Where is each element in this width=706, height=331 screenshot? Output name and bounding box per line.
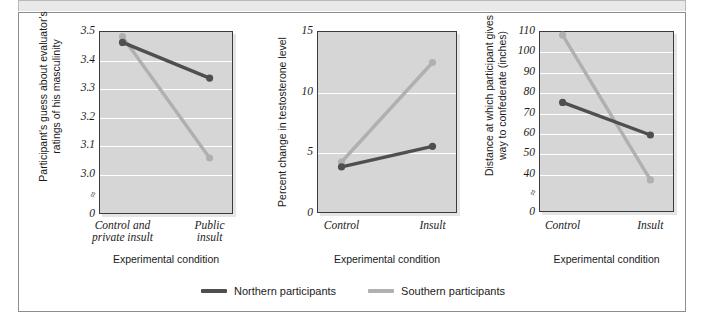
gridline: [100, 89, 232, 90]
y-axis-title: Percent change in testosterone level: [276, 31, 289, 213]
y-axis-title: Participant's guess about evaluator'srat…: [37, 5, 62, 188]
plot-area: [317, 31, 457, 213]
gridline: [540, 154, 673, 155]
figure-top-band: [18, 0, 686, 11]
y-axis-break-icon: ≈: [88, 190, 98, 198]
chart-panel-3: 1101009080706050400≈ControlInsultExperim…: [469, 13, 687, 313]
y-tick-label: 3.0: [61, 167, 95, 179]
gridline: [100, 61, 232, 62]
x-axis-title: Experimental condition: [277, 253, 497, 265]
x-tick-label: Insult: [602, 219, 698, 231]
legend-entry-southern: Southern participants: [368, 285, 505, 297]
y-tick-label: 3.4: [61, 53, 95, 65]
legend-entry-northern: Northern participants: [201, 285, 336, 297]
plot-area: [99, 31, 233, 214]
y-tick-label: 3.3: [61, 81, 95, 93]
gridline: [540, 175, 673, 176]
y-tick-label: 3.1: [61, 138, 95, 150]
x-tick-label: Control andprivate insult: [74, 219, 170, 243]
x-tick-label: Publicinsult: [162, 219, 258, 243]
figure-frame: 3.53.43.33.23.13.00≈Control andprivate i…: [18, 12, 686, 312]
y-tick-label: 0: [501, 205, 535, 217]
gridline: [540, 93, 673, 94]
y-axis-title: Distance at which participant givesway t…: [483, 5, 508, 186]
gridline: [100, 146, 232, 147]
y-tick-label: 3.2: [61, 110, 95, 122]
y-tick-label: 0: [61, 207, 95, 219]
chart-panel-1: 3.53.43.33.23.13.00≈Control andprivate i…: [19, 13, 254, 313]
x-tick-label: Control: [515, 219, 611, 231]
gridline: [540, 114, 673, 115]
y-axis-break-icon: ≈: [528, 188, 538, 196]
chart-panel-2: 151050ControlInsultExperimental conditio…: [254, 13, 469, 313]
gridline: [318, 93, 456, 94]
legend-swatch-southern: [368, 289, 394, 293]
y-tick-label: 3.5: [61, 24, 95, 36]
gridline: [100, 118, 232, 119]
x-tick-label: Insult: [385, 219, 481, 231]
gridline: [540, 52, 673, 53]
gridline: [318, 153, 456, 154]
gridline: [540, 134, 673, 135]
legend-label-northern: Northern participants: [234, 285, 336, 297]
x-tick-label: Control: [294, 219, 390, 231]
legend-swatch-northern: [201, 289, 227, 293]
legend-label-southern: Southern participants: [401, 285, 505, 297]
legend: Northern participantsSouthern participan…: [19, 285, 687, 297]
plot-area: [539, 31, 674, 212]
gridline: [100, 175, 232, 176]
gridline: [540, 73, 673, 74]
x-axis-title: Experimental condition: [499, 253, 706, 265]
x-axis-title: Experimental condition: [59, 253, 273, 265]
